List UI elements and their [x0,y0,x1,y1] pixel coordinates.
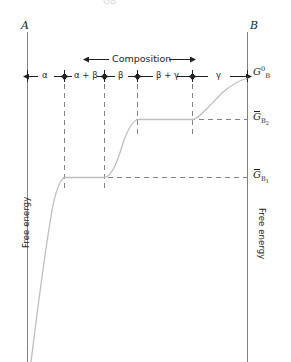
phase-label-alpha: α [42,71,48,80]
phase-label-gamma: γ [216,71,221,80]
free-energy-reference-lines [63,120,247,178]
free-energy-curve [31,78,248,362]
energy-symbol: G [253,66,261,77]
energy-subscript: B1 [261,175,269,183]
phase-boundary-dashed-lines [65,84,193,192]
energy-symbol: G [253,111,261,122]
energy-label-g-b-2: GB2 [253,112,269,126]
overbar [254,111,260,112]
endpoint-label-a: A [21,20,29,31]
overbar [254,169,260,170]
free-energy-composition-figure: ḠB [0,0,291,362]
energy-symbol: G [253,169,261,180]
endpoint-label-b: B [250,20,258,31]
phase-label-beta: β [118,71,123,80]
phase-field-arrows [28,70,248,82]
phase-label-beta-gamma: β + γ [156,71,179,80]
composition-label: Composition [112,54,171,64]
right-axis-title: Free energy [258,208,267,259]
overbar-group: G [253,112,261,122]
energy-label-g-b-standard: G0B [253,66,270,80]
energy-subscript: B2 [261,117,269,125]
left-axis-title: Free energy [22,197,31,248]
energy-subscript: B [265,72,270,80]
phase-label-alpha-beta: α + β [74,71,98,80]
overbar-group: G [253,170,261,180]
energy-label-g-b-1: GB1 [253,170,269,184]
